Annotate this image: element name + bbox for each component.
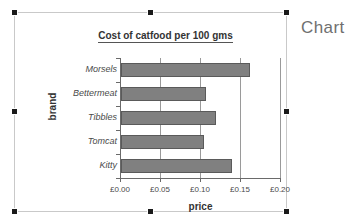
x-axis-tick bbox=[280, 178, 281, 182]
x-axis-title: price bbox=[120, 201, 281, 212]
category-label: Kitty bbox=[39, 160, 117, 170]
bar[interactable] bbox=[121, 111, 216, 125]
selection-handle-middle-right[interactable] bbox=[284, 109, 289, 114]
chart-object-frame[interactable]: Cost of catfood per 100 gms brand Morsel… bbox=[14, 12, 287, 212]
x-axis-tick bbox=[160, 178, 161, 182]
y-axis-tick bbox=[116, 130, 120, 131]
chart-title: Cost of catfood per 100 gms bbox=[29, 30, 302, 41]
x-axis-tick bbox=[240, 178, 241, 182]
selection-handle-middle-left[interactable] bbox=[12, 109, 17, 114]
bar[interactable] bbox=[121, 135, 204, 149]
y-axis-tick bbox=[116, 154, 120, 155]
selection-handle-top-center[interactable] bbox=[148, 10, 153, 15]
x-axis-tick bbox=[200, 178, 201, 182]
bar[interactable] bbox=[121, 159, 232, 173]
bar[interactable] bbox=[121, 87, 206, 101]
x-axis-tick-label: £0.15 bbox=[230, 185, 250, 194]
gridline bbox=[280, 58, 281, 178]
selection-handle-top-left[interactable] bbox=[12, 10, 17, 15]
x-axis-tick-label: £0.20 bbox=[270, 185, 290, 194]
y-axis-tick bbox=[116, 82, 120, 83]
chart-title-text: Cost of catfood per 100 gms bbox=[98, 30, 232, 43]
x-axis-tick bbox=[120, 178, 121, 182]
x-axis-tick-label: £0.00 bbox=[110, 185, 130, 194]
category-label-group: MorselsBettermeatTibblesTomcatKitty bbox=[37, 58, 117, 178]
y-axis-tick bbox=[116, 178, 120, 179]
selection-handle-top-right[interactable] bbox=[284, 10, 289, 15]
category-label: Morsels bbox=[39, 64, 117, 74]
category-label: Tomcat bbox=[39, 136, 117, 146]
category-label: Bettermeat bbox=[39, 88, 117, 98]
chart-screenshot: Cost of catfood per 100 gms brand Morsel… bbox=[0, 0, 348, 223]
outside-chart-label: Chart bbox=[301, 18, 345, 38]
y-axis-tick bbox=[116, 106, 120, 107]
bar[interactable] bbox=[121, 63, 250, 77]
x-axis-tick-label: £0.05 bbox=[150, 185, 170, 194]
plot-area: £0.00£0.05£0.10£0.15£0.20 bbox=[120, 58, 280, 178]
selection-handle-bottom-left[interactable] bbox=[12, 209, 17, 214]
x-axis-tick-label: £0.10 bbox=[190, 185, 210, 194]
selection-handle-bottom-center[interactable] bbox=[148, 209, 153, 214]
selection-handle-bottom-right[interactable] bbox=[284, 209, 289, 214]
category-label: Tibbles bbox=[39, 112, 117, 122]
y-axis-tick bbox=[116, 58, 120, 59]
